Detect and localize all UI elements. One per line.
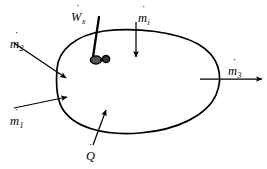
control-volume-diagram: ˙m2 ˙m1 ˙mi ˙m3 ˙Q ˙Wx: [0, 0, 267, 169]
diagram-canvas: [0, 0, 267, 169]
label-shaft-work: ˙Wx: [71, 8, 85, 26]
heat-transfer-arrow: [93, 110, 106, 145]
label-mass-flow-top: ˙mi: [138, 9, 150, 27]
shaft-work-rod: [93, 17, 99, 57]
label-mass-flow-3: ˙m3: [228, 62, 242, 80]
label-heat-transfer: ˙Q: [86, 147, 95, 163]
subscript-m1: 1: [20, 121, 24, 130]
rotor-connector: [100, 60, 103, 61]
rotor-disc-small: [102, 55, 109, 62]
label-mass-flow-2: ˙m2: [10, 35, 24, 53]
subscript-m2: 2: [20, 44, 24, 53]
control-volume-boundary: [57, 30, 220, 134]
rotor-disc-large: [90, 56, 101, 64]
subscript-m3: 3: [238, 71, 242, 80]
subscript-mi: i: [148, 18, 150, 27]
label-mass-flow-1: ˙m1: [10, 112, 24, 130]
subscript-w: x: [82, 17, 86, 26]
